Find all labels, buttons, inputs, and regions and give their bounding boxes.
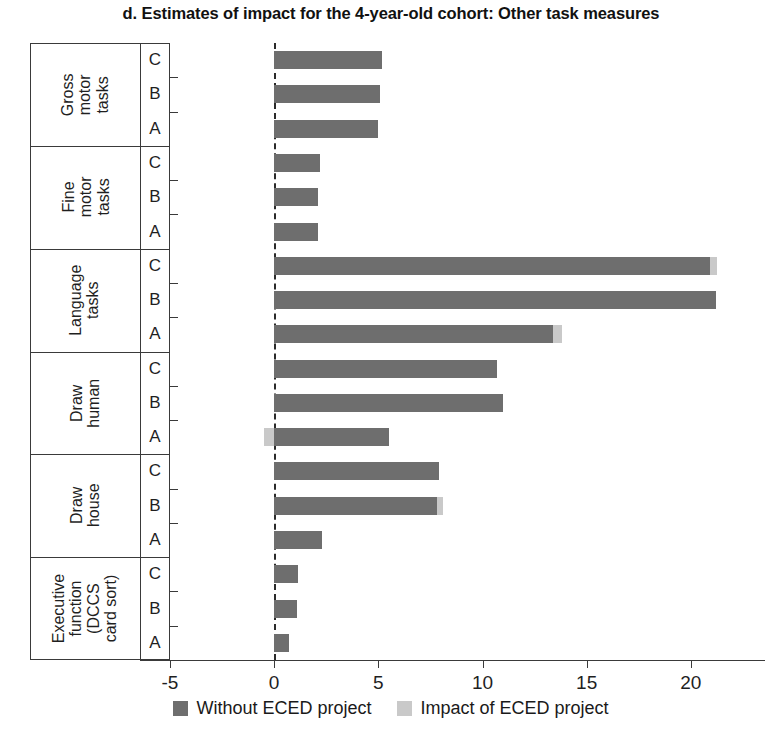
group-label-executive-function-dccs-cardsort: Executivefunction(DCCScard sort) (30, 557, 140, 660)
chart-title: d. Estimates of impact for the 4-year-ol… (0, 4, 782, 23)
plot-area: GrossmotortasksCBAFinemotortasksCBALangu… (30, 43, 765, 660)
subcategory-label: C (140, 352, 170, 386)
bar-impact (437, 497, 443, 515)
subcategory-label: A (140, 626, 170, 660)
subcategory-label: B (140, 489, 170, 523)
bar-without-project (274, 497, 437, 515)
subcategory-label: B (140, 283, 170, 317)
subcategory-label: A (140, 112, 170, 146)
subcategory-label: C (140, 454, 170, 488)
x-axis-tick-label: 15 (576, 672, 597, 694)
group-label-gross-motor-tasks: Grossmotortasks (30, 43, 140, 146)
legend-swatch-icon-without-project (173, 701, 188, 716)
subcategory-label: C (140, 43, 170, 77)
legend-label-impact: Impact of ECED project (420, 698, 608, 719)
x-axis-line (140, 660, 765, 661)
x-axis-tick (691, 660, 692, 668)
x-axis-tick (274, 660, 275, 668)
bar-without-project (274, 188, 318, 206)
subcategory-label: C (140, 146, 170, 180)
group-label-draw-human: Drawhuman (30, 352, 140, 455)
bar-without-project (274, 85, 380, 103)
bar-without-project (274, 531, 322, 549)
bar-impact (553, 325, 561, 343)
bar-without-project (274, 634, 289, 652)
subcategory-label: C (140, 249, 170, 283)
group-label-language-tasks: Languagetasks (30, 249, 140, 352)
x-axis-tick-label: 10 (472, 672, 493, 694)
legend-swatch-icon-impact (397, 701, 412, 716)
x-axis-tick (483, 660, 484, 668)
x-axis-tick-label: 5 (373, 672, 384, 694)
subcategory-label: A (140, 523, 170, 557)
bar-without-project (274, 51, 382, 69)
subcategory-label: B (140, 386, 170, 420)
bar-without-project (274, 223, 318, 241)
bar-without-project (274, 120, 378, 138)
subcategory-label: A (140, 214, 170, 248)
bar-without-project (274, 428, 389, 446)
subcategory-label: B (140, 180, 170, 214)
group-label-fine-motor-tasks: Finemotortasks (30, 146, 140, 249)
subcategory-label: A (140, 420, 170, 454)
bar-without-project (274, 394, 503, 412)
legend-label-without-project: Without ECED project (196, 698, 371, 719)
x-axis-tick-label: 20 (680, 672, 701, 694)
x-axis-tick (587, 660, 588, 668)
bars-layer (170, 43, 765, 660)
bar-without-project (274, 291, 716, 309)
bar-impact (264, 428, 274, 446)
bar-without-project (274, 565, 298, 583)
bar-without-project (274, 154, 320, 172)
bar-without-project (274, 600, 297, 618)
x-axis-tick (170, 660, 171, 668)
bar-without-project (274, 325, 553, 343)
chart-legend: Without ECED project Impact of ECED proj… (0, 698, 782, 719)
x-axis-tick-label: 0 (269, 672, 280, 694)
bar-impact (710, 257, 717, 275)
bar-without-project (274, 462, 439, 480)
subcategory-label: B (140, 77, 170, 111)
x-axis-tick (378, 660, 379, 668)
subcategory-label: B (140, 591, 170, 625)
legend-item-impact: Impact of ECED project (397, 698, 608, 719)
legend-item-without-project: Without ECED project (173, 698, 371, 719)
subcategory-label: A (140, 317, 170, 351)
group-label-draw-house: Drawhouse (30, 454, 140, 557)
chart-figure: d. Estimates of impact for the 4-year-ol… (0, 0, 782, 732)
bar-without-project (274, 257, 709, 275)
bar-without-project (274, 360, 497, 378)
subcategory-label: C (140, 557, 170, 591)
x-axis-tick-label: -5 (162, 672, 179, 694)
